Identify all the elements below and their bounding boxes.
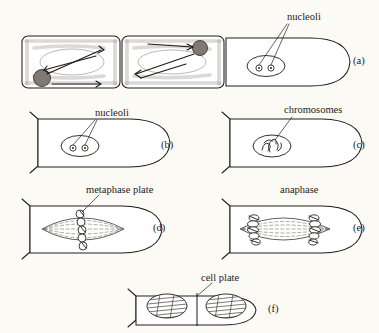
panel-a (22, 24, 350, 88)
nucleus-a3 (247, 56, 285, 77)
panel-letter-b: (b) (161, 139, 174, 151)
label-anaphase-e: anaphase (280, 184, 319, 195)
leader-cell-plate-f (197, 283, 212, 296)
mitosis-figure: nucleoli (a) nucleoli (b) (0, 0, 379, 333)
label-chromosomes-c: chromosomes (284, 104, 342, 115)
panel-f (128, 283, 256, 327)
panel-letter-d: (d) (153, 222, 166, 234)
figure-canvas: nucleoli (a) nucleoli (b) (0, 0, 379, 333)
panel-b (30, 112, 170, 173)
panel-a-cell-2 (122, 36, 224, 88)
panel-a-cell-1 (22, 36, 120, 88)
nucleus-c (253, 135, 291, 157)
nucleus-b (61, 136, 99, 157)
panel-letter-f: (f) (268, 303, 279, 315)
label-nucleoli-a: nucleoli (287, 11, 321, 22)
label-nucleoli-b: nucleoli (95, 107, 129, 118)
panel-letter-a: (a) (353, 55, 365, 67)
panel-letter-c: (c) (353, 139, 365, 151)
panel-letter-e: (e) (353, 222, 365, 234)
panel-e (222, 199, 362, 259)
panel-d (22, 195, 162, 259)
panel-a-cell-3 (226, 38, 350, 86)
label-metaphase-plate-d: metaphase plate (86, 184, 154, 195)
nucleus-a2 (193, 41, 208, 56)
panel-c (222, 112, 362, 173)
label-cell-plate-f: cell plate (201, 272, 240, 283)
